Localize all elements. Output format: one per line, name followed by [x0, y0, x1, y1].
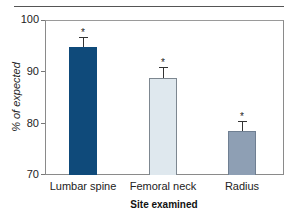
y-tick-90: [41, 71, 45, 72]
bar-radius: [228, 131, 256, 175]
x-label-femoral-neck: Femoral neck: [130, 180, 197, 192]
y-tick-100: [41, 20, 45, 21]
x-axis-title: Site examined: [130, 199, 197, 210]
bar-lumbar-spine: [69, 47, 97, 175]
y-tick-label: 70: [9, 168, 39, 180]
error-bar: [242, 121, 243, 131]
top-rule: [14, 6, 284, 7]
x-label-radius: Radius: [225, 180, 259, 192]
y-tick-80: [41, 123, 45, 124]
error-bar: [163, 67, 164, 78]
significance-marker: *: [78, 28, 88, 38]
y-axis-title: % of expected: [10, 62, 22, 132]
significance-marker: *: [158, 58, 168, 68]
bar-femoral-neck: [149, 78, 177, 175]
y-tick-label: 100: [9, 13, 39, 25]
significance-marker: *: [237, 112, 247, 122]
error-bar: [83, 37, 84, 47]
y-tick-70: [41, 174, 45, 175]
x-label-lumbar-spine: Lumbar spine: [50, 180, 117, 192]
